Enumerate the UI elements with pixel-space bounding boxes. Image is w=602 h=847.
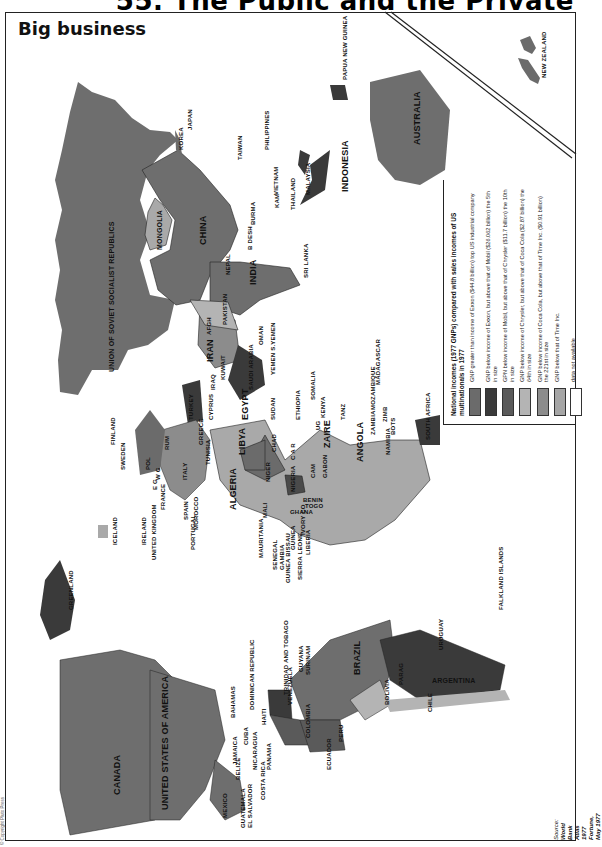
source-note: Source: World Bank Atlas 1977 Fortune, M… — [553, 813, 602, 840]
label-cuba: CUBA — [243, 727, 249, 745]
legend-item: GPN below income of Mobil, but above tha… — [502, 188, 515, 416]
label-togo: TOGO — [305, 503, 323, 509]
label-mexico: MEXICO — [222, 793, 228, 818]
legend-label: GPN below income of Mobil, but above tha… — [502, 188, 515, 382]
label-bdesh: B DESH — [247, 226, 253, 250]
legend-swatch — [502, 388, 514, 416]
label-tanz: TANZ — [340, 404, 346, 420]
label-pol: POL — [145, 457, 151, 470]
label-gabon: GABON — [322, 455, 328, 478]
label-ethiopia: ETHIOPIA — [295, 390, 301, 420]
label-egypt: EGYPT — [240, 388, 250, 420]
label-vietnam: VIETNAM — [273, 167, 279, 195]
label-senegal: SENEGAL — [272, 540, 278, 570]
label-mauritania: MAURITANIA — [258, 518, 264, 558]
label-kam: KAM — [274, 194, 280, 208]
label-spain: SPAIN — [183, 501, 189, 520]
label-mali: MALI — [262, 503, 268, 518]
label-zaire: ZAIRE — [322, 420, 332, 448]
label-oman: OMAN — [258, 326, 264, 345]
label-colombia: COLOMBIA — [305, 704, 311, 738]
label-iran: IRAN — [205, 339, 215, 362]
label-libya: LIBYA — [237, 428, 247, 455]
label-cyprus: CYPRUS — [208, 394, 214, 420]
legend-label: GNP below income of Exxon, but above tha… — [485, 188, 498, 382]
label-iceland: ICELAND — [112, 517, 118, 545]
source-label: Source: — [553, 813, 560, 840]
label-somalia: SOMALIA — [310, 371, 316, 400]
legend-item: GNP below that of Time Inc. — [554, 188, 566, 416]
label-chad: CHAD — [271, 434, 277, 452]
legend-item: GNP below income of Coca Cola, but above… — [537, 188, 550, 416]
label-nigeria: NIGERIA — [290, 466, 296, 492]
label-nepal: NEPAL — [225, 254, 231, 275]
label-canada: CANADA — [112, 755, 122, 795]
label-bahamas: BAHAMAS — [230, 686, 236, 718]
legend-swatch — [537, 388, 549, 416]
label-cam: CAM — [310, 464, 316, 478]
map-legend: National incomes (1977 GNPs) compared wi… — [443, 180, 575, 425]
legend-swatch — [485, 388, 497, 416]
legend-item: GNP greater than income of Exxon ($44.8 … — [469, 188, 481, 416]
legend-label: GNP below that of Time Inc. — [554, 312, 561, 382]
label-zimb: ZIMB — [382, 407, 388, 422]
png-shape — [330, 85, 348, 100]
label-italy: ITALY — [182, 463, 188, 480]
label-nicaragua: NICARAGUA — [252, 732, 258, 770]
label-thailand: THAILAND — [290, 178, 296, 210]
label-surinam: SURINAM — [305, 646, 311, 675]
label-sri-lanka: SRI LANKA — [303, 244, 309, 278]
label-peru: PERU — [338, 725, 344, 742]
copyright-note: © Copyright Pluto Press — [0, 797, 5, 845]
iceland-shape — [98, 525, 108, 538]
indonesia-shape — [298, 150, 330, 205]
label-tunisia: TUNISIA — [205, 440, 211, 465]
label-australia: AUSTRALIA — [412, 91, 422, 145]
source-line-1: World Bank Atlas 1977 — [560, 813, 588, 840]
label-eg: E G — [152, 479, 158, 490]
label-guatemala: GUATEMALA — [240, 788, 246, 828]
label-car: C A R — [290, 443, 296, 460]
legend-swatch — [570, 388, 582, 416]
label-taiwan: TAIWAN — [237, 136, 243, 160]
legend-swatch — [519, 388, 531, 416]
label-el-salvador: EL SALVADOR — [247, 784, 253, 828]
label-guyana: GUYANA — [298, 645, 304, 672]
label-rum: RUM — [164, 436, 170, 450]
label-kenya: KENYA — [320, 397, 326, 418]
label-turkey: TURKEY — [188, 394, 194, 420]
label-pakistan: PAKISTAN — [222, 294, 228, 325]
label-india: INDIA — [248, 260, 258, 286]
label-venezuela: VENEZUELA — [287, 667, 293, 705]
label-panama: PANAMA — [266, 743, 272, 770]
label-chile: CHILE — [427, 693, 433, 712]
label-usa: UNITED STATES OF AMERICA — [160, 676, 170, 810]
legend-title: National incomes (1977 GNPs) compared wi… — [450, 188, 465, 416]
label-jamaica: JAMAICA — [232, 736, 238, 765]
label-namibia: NAMIBIA — [385, 428, 391, 455]
label-china: CHINA — [198, 216, 208, 246]
source-line-2: Fortune, May 1977 — [588, 813, 602, 840]
label-zambia: ZAMBIA — [370, 410, 376, 435]
label-dominican: DOMINICAN REPUBLIC — [249, 639, 255, 710]
legend-label: data not available — [570, 338, 577, 382]
label-brazil: BRAZIL — [352, 641, 362, 675]
label-sudan: SUDAN — [270, 398, 276, 420]
label-south-africa: SOUTH AFRICA — [425, 392, 431, 440]
label-ireland: IRELAND — [141, 517, 147, 545]
label-uk: UNITED KINGDOM — [151, 504, 157, 560]
legend-swatch — [554, 388, 566, 416]
label-afgh: AFGH — [206, 317, 212, 335]
legend-item: GNP below income of Exxon, but above tha… — [485, 188, 498, 416]
label-iraq: IRAQ — [210, 374, 216, 390]
label-ussr: UNION OF SOVIET SOCIALIST REPUBLICS — [108, 221, 115, 372]
label-indonesia: INDONESIA — [340, 140, 350, 192]
australia-shape — [370, 70, 450, 185]
label-uruguay: URUGUAY — [438, 619, 444, 650]
label-new-zealand: NEW ZEALAND — [541, 31, 547, 78]
label-mongolia: MONGOLIA — [156, 210, 163, 250]
label-saudi: SAUDI ARABIA — [248, 344, 254, 390]
label-france: FRANCE — [160, 484, 166, 510]
label-sweden: SWEDEN — [120, 442, 126, 470]
label-ghana: GHANA — [290, 509, 313, 515]
